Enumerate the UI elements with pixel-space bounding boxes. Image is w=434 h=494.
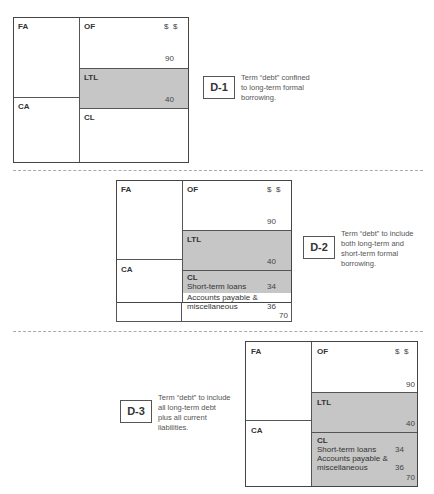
divider [311, 432, 417, 433]
ltl-label: LTL [317, 398, 331, 407]
currency-header: $ $ [164, 22, 177, 31]
fa-label: FA [18, 22, 28, 31]
diagram-id-d1: D-1 [203, 76, 235, 99]
balance-sheet-d3: FA CA OF $ $ 90 LTL 40 CL Short-term loa… [245, 341, 418, 487]
short-term-loans-value: 34 [267, 282, 276, 291]
divider [182, 181, 183, 302]
accounts-payable-value: 36 [395, 463, 404, 472]
balance-sheet-d2-extension: miscellaneous 36 70 [181, 302, 292, 322]
of-value: 90 [406, 380, 415, 389]
divider [311, 342, 312, 486]
divider [79, 108, 188, 109]
balance-sheet-d1: FA CA OF $ $ 90 LTL 40 CL [13, 17, 189, 163]
section-separator [13, 331, 423, 332]
currency-header: $ $ [395, 347, 408, 356]
divider [14, 97, 79, 98]
accounts-payable-value: 36 [267, 302, 276, 311]
short-term-loans-label: Short-term loans [317, 445, 376, 454]
of-label: OF [187, 185, 198, 194]
ca-label: CA [251, 426, 263, 435]
accounts-payable-label: Accounts payable & [317, 454, 388, 463]
ca-label: CA [121, 265, 133, 274]
short-term-loans-value: 34 [395, 445, 404, 454]
cl-label: CL [84, 113, 95, 122]
divider [117, 259, 182, 260]
ltl-label: LTL [187, 235, 201, 244]
currency-header: $ $ [267, 185, 280, 194]
ltl-value: 40 [267, 257, 276, 266]
diagram-description-d3: Term “debt” to include all long-term deb… [158, 393, 231, 433]
ca-label: CA [18, 102, 30, 111]
miscellaneous-label: miscellaneous [317, 463, 368, 472]
short-term-loans-label: Short-term loans [187, 282, 246, 291]
ltl-value: 40 [165, 95, 174, 104]
of-value: 90 [165, 54, 174, 63]
miscellaneous-label: miscellaneous [187, 302, 238, 311]
cl-label: CL [317, 436, 328, 445]
cl-total-value: 70 [279, 311, 288, 320]
ltl-label: LTL [84, 73, 98, 82]
diagram-id-d3: D-3 [120, 400, 152, 423]
divider [182, 230, 291, 231]
accounts-payable-label: Accounts payable & [187, 293, 258, 302]
section-separator [13, 170, 423, 171]
of-label: OF [317, 347, 328, 356]
divider [182, 270, 291, 271]
of-value: 90 [267, 217, 276, 226]
divider [79, 18, 80, 162]
cl-label: CL [187, 273, 198, 282]
fa-label: FA [251, 347, 261, 356]
divider [246, 420, 311, 421]
ltl-value: 40 [406, 419, 415, 428]
cl-total-value: 70 [406, 473, 415, 482]
divider [79, 68, 188, 69]
divider [311, 392, 417, 393]
of-label: OF [84, 22, 95, 31]
balance-sheet-d2: FA CA OF $ $ 90 LTL 40 CL Short-term loa… [116, 180, 292, 303]
ca-column-extension [116, 302, 182, 322]
diagram-description-d1: Term “debt” confined to long-term formal… [241, 73, 310, 103]
diagram-description-d2: Term “debt” to include both long-term an… [341, 229, 414, 269]
diagram-id-d2: D-2 [303, 236, 335, 259]
fa-label: FA [121, 185, 131, 194]
